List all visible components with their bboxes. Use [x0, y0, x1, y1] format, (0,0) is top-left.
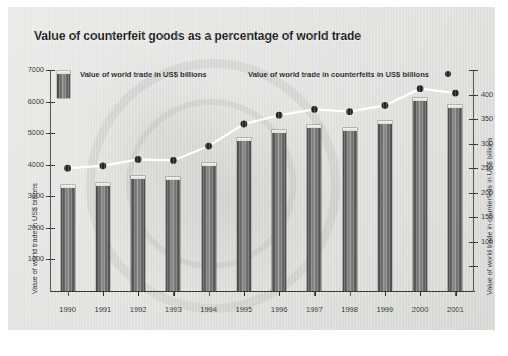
counterfeit-data-point: [135, 156, 142, 163]
chart-panel: Value of counterfeit goods as a percenta…: [8, 7, 495, 330]
counterfeit-data-point: [241, 121, 248, 128]
legend-line-label: Value of world trade in counterfeits in …: [248, 70, 429, 79]
legend-line-marker: [445, 71, 451, 77]
counterfeit-data-point: [452, 90, 459, 97]
counterfeit-line-series: [8, 7, 495, 330]
legend-bar-swatch-cap: [57, 71, 70, 74]
counterfeit-data-point: [417, 85, 424, 92]
right-axis-title: Value of world trade in counterfeits in …: [485, 137, 494, 295]
legend-bar-swatch: [57, 71, 70, 98]
counterfeit-data-point: [170, 157, 177, 164]
counterfeit-data-point: [276, 112, 283, 119]
counterfeit-data-point: [100, 162, 107, 169]
counterfeit-data-point: [382, 102, 389, 109]
counterfeit-line: [68, 89, 456, 169]
left-axis-title: Value of world trade in US$ billions: [30, 183, 39, 294]
counterfeit-data-point: [346, 108, 353, 115]
legend-bar-label: Value of world trade in US$ billions: [80, 70, 207, 79]
counterfeit-data-point: [205, 143, 212, 150]
counterfeit-data-point: [64, 165, 71, 172]
chart-image: Value of counterfeit goods as a percenta…: [0, 0, 508, 356]
counterfeit-data-point: [311, 106, 318, 113]
